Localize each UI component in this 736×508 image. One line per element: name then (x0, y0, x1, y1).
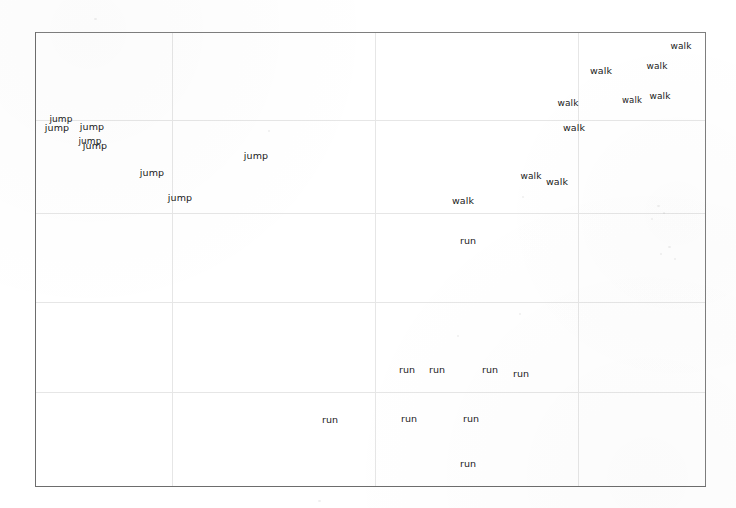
data-point-label-run: run (460, 236, 476, 246)
data-point-label-walk: walk (622, 96, 642, 105)
data-point-label-walk: walk (650, 92, 671, 101)
gridline-horizontal (35, 392, 706, 393)
gridline-horizontal (35, 213, 706, 214)
gridline-vertical (375, 32, 376, 487)
gridline-horizontal (35, 120, 706, 121)
data-point-label-run: run (322, 415, 338, 425)
data-point-label-jump: jump (140, 168, 164, 178)
data-point-label-walk: walk (546, 177, 568, 187)
gridline-vertical (172, 32, 173, 487)
gridline-horizontal (35, 302, 706, 303)
data-point-label-run: run (460, 459, 476, 469)
plot-area: jumpjumpjumpjumpjumpjumpjumpjumpwalkwalk… (35, 32, 706, 487)
axis-spine-bottom (35, 486, 706, 487)
data-point-label-run: run (399, 365, 415, 375)
axis-spine-left (35, 32, 36, 487)
data-point-label-walk: walk (590, 66, 612, 76)
data-point-label-run: run (463, 414, 479, 424)
scatter-figure: jumpjumpjumpjumpjumpjumpjumpjumpwalkwalk… (0, 0, 736, 508)
data-point-label-walk: walk (647, 62, 668, 71)
data-point-label-walk: walk (563, 123, 585, 133)
scan-speckle (318, 500, 321, 502)
data-point-label-jump: jump (244, 151, 268, 161)
scan-speckle (94, 18, 97, 20)
data-point-label-jump: jump (168, 193, 192, 203)
axes-frame (35, 32, 706, 487)
data-point-label-jump: jump (45, 123, 69, 133)
data-point-label-run: run (401, 414, 417, 424)
data-point-label-walk: walk (452, 196, 474, 206)
data-point-label-walk: walk (671, 42, 692, 51)
data-point-label-run: run (513, 369, 529, 379)
data-point-label-run: run (429, 365, 445, 375)
data-point-label-walk: walk (521, 172, 542, 181)
data-point-label-jump: jump (80, 122, 104, 132)
data-point-label-jump: jump (83, 141, 107, 151)
data-point-label-run: run (482, 365, 498, 375)
data-point-label-walk: walk (558, 99, 579, 108)
